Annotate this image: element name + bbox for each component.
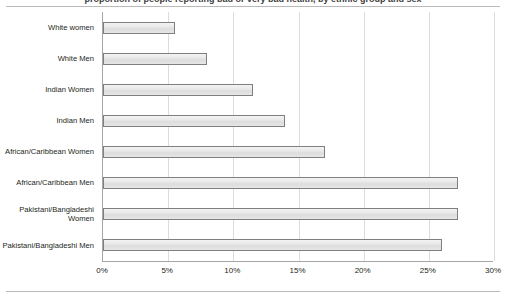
bar-row xyxy=(103,199,494,230)
bar-row xyxy=(103,43,494,74)
x-tick-15%: 15% xyxy=(289,266,305,275)
bar-row xyxy=(103,167,494,198)
bar-row xyxy=(103,136,494,167)
page-rule-top xyxy=(6,6,500,7)
bar-african-caribbean-women[interactable] xyxy=(103,146,325,158)
category-axis-labels: White womenWhite MenIndian WomenIndian M… xyxy=(0,12,98,261)
x-tick-10%: 10% xyxy=(224,266,240,275)
bar-pakistani-bangladeshi-women[interactable] xyxy=(103,208,458,220)
x-tick-25%: 25% xyxy=(420,266,436,275)
bar-white-women[interactable] xyxy=(103,22,175,34)
bar-african-caribbean-men[interactable] xyxy=(103,177,458,189)
bar-row xyxy=(103,12,494,43)
category-label-african-caribbean-men: African/Caribbean Men xyxy=(0,167,98,198)
bar-row xyxy=(103,74,494,105)
category-label-african-caribbean-women: African/Caribbean Women xyxy=(0,136,98,167)
x-tick-5%: 5% xyxy=(161,266,173,275)
bar-chart: White womenWhite MenIndian WomenIndian M… xyxy=(0,8,506,291)
clipped-figure-caption: proportion of people reporting bad or ve… xyxy=(0,0,506,5)
x-tick-30%: 30% xyxy=(485,266,501,275)
plot-area xyxy=(102,12,493,262)
bar-row xyxy=(103,230,494,261)
bar-rows xyxy=(103,12,494,261)
clipped-caption-text: proportion of people reporting bad or ve… xyxy=(0,0,506,5)
category-label-pakistani-bangladeshi-men: Pakistani/Bangladeshi Men xyxy=(0,230,98,261)
bar-indian-men[interactable] xyxy=(103,115,285,127)
category-label-white-women: White women xyxy=(0,12,98,43)
category-label-white-men: White Men xyxy=(0,43,98,74)
x-axis-tick-labels: 0%5%10%15%20%25%30% xyxy=(0,266,506,282)
x-tick-0%: 0% xyxy=(96,266,108,275)
category-label-pakistani-bangladeshi-women: Pakistani/Bangladeshi Women xyxy=(0,199,98,230)
bar-indian-women[interactable] xyxy=(103,84,253,96)
x-tick-20%: 20% xyxy=(355,266,371,275)
category-label-indian-women: Indian Women xyxy=(0,74,98,105)
bar-row xyxy=(103,105,494,136)
bar-pakistani-bangladeshi-men[interactable] xyxy=(103,239,442,251)
gridline-30% xyxy=(494,12,495,261)
bar-white-men[interactable] xyxy=(103,53,207,65)
page-rule-bottom xyxy=(6,291,500,292)
category-label-indian-men: Indian Men xyxy=(0,105,98,136)
